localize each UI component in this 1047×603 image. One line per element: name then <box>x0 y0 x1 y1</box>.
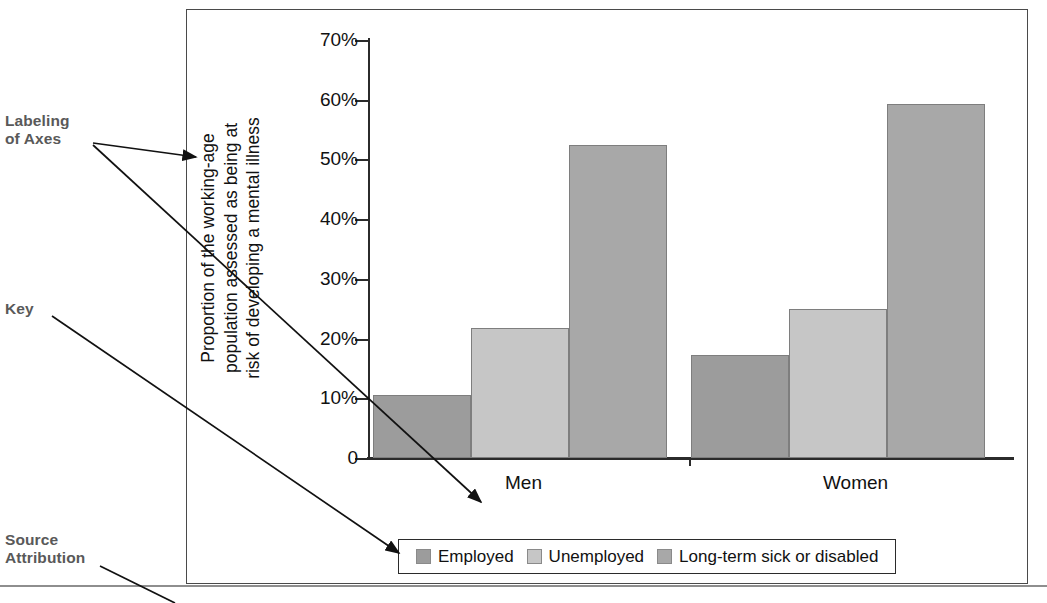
y-axis-tick-label: 20% <box>320 328 358 350</box>
y-axis-tick-label: 60% <box>320 89 358 111</box>
plot-area: 010%20%30%40%50%60%70% <box>368 40 1013 458</box>
legend-label: Employed <box>438 547 514 567</box>
bar <box>471 328 569 458</box>
x-axis-group-separator-tick <box>689 457 691 466</box>
legend-swatch-icon <box>527 549 542 564</box>
annotation-labeling-of-axes: Labeling of Axes <box>5 112 70 149</box>
y-axis-tick-label: 50% <box>320 148 358 170</box>
annotation-key: Key <box>5 300 34 318</box>
bar <box>373 395 471 458</box>
legend-item[interactable]: Long-term sick or disabled <box>657 547 878 567</box>
y-axis-tick-label: 30% <box>320 268 358 290</box>
x-axis-label-women: Women <box>823 472 888 494</box>
y-axis-tick-label: 0 <box>347 447 358 469</box>
bar <box>887 104 985 458</box>
bar <box>569 145 667 459</box>
chart-legend: EmployedUnemployedLong-term sick or disa… <box>398 539 896 574</box>
annotation-source-attribution: Source Attribution <box>5 531 85 568</box>
legend-item[interactable]: Employed <box>416 547 514 567</box>
y-axis-tick-label: 10% <box>320 387 358 409</box>
bar <box>789 309 887 458</box>
y-axis-tick-label: 40% <box>320 208 358 230</box>
figure-annotated-chart: Labeling of Axes Key Source Attribution … <box>0 0 1047 603</box>
y-axis-tick-label: 70% <box>320 29 358 51</box>
page-divider-rule <box>0 585 1047 587</box>
legend-swatch-icon <box>657 549 672 564</box>
bar <box>691 355 789 458</box>
legend-label: Unemployed <box>549 547 644 567</box>
legend-swatch-icon <box>416 549 431 564</box>
legend-label: Long-term sick or disabled <box>679 547 878 567</box>
x-axis-label-men: Men <box>505 472 542 494</box>
legend-item[interactable]: Unemployed <box>527 547 644 567</box>
